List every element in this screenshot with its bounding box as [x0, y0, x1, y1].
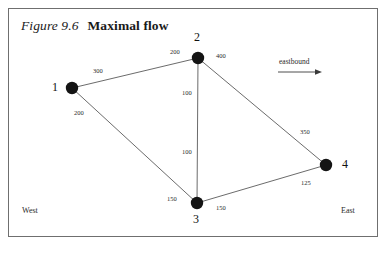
eastbound-arrow-head — [315, 69, 322, 75]
node-label-2: 2 — [194, 31, 200, 43]
edge-label-2-4-near-4: 350 — [300, 129, 310, 136]
west-label: West — [22, 207, 38, 215]
edge-label-2-3-near-2: 100 — [182, 90, 192, 97]
edge-1-2 — [72, 58, 198, 88]
edge-label-2-4-near-2: 400 — [216, 53, 226, 60]
edge-label-2-3-near-3: 100 — [182, 149, 192, 156]
figure-container: Figure 9.6Maximal flow 1 2 3 4 300 200 2… — [0, 0, 392, 253]
edge-label-3-4-near-3: 150 — [216, 205, 226, 212]
edge-2-4 — [198, 58, 326, 165]
node-1 — [66, 82, 78, 94]
edge-label-3-4-near-4: 125 — [301, 180, 311, 187]
edge-2-3 — [197, 58, 198, 203]
node-label-1: 1 — [52, 81, 58, 93]
edge-label-1-3-near-1: 200 — [74, 110, 84, 117]
edge-label-1-2-near-1: 300 — [93, 68, 103, 75]
node-4 — [320, 159, 332, 171]
node-label-4: 4 — [342, 158, 348, 170]
node-3 — [191, 197, 203, 209]
eastbound-label: eastbound — [279, 58, 309, 66]
node-label-3: 3 — [193, 213, 199, 225]
node-2 — [192, 52, 204, 64]
edge-label-1-3-near-3: 150 — [167, 196, 177, 203]
east-label: East — [341, 207, 355, 215]
edge-label-1-2-near-2: 200 — [170, 49, 180, 56]
edge-1-3 — [72, 88, 197, 203]
